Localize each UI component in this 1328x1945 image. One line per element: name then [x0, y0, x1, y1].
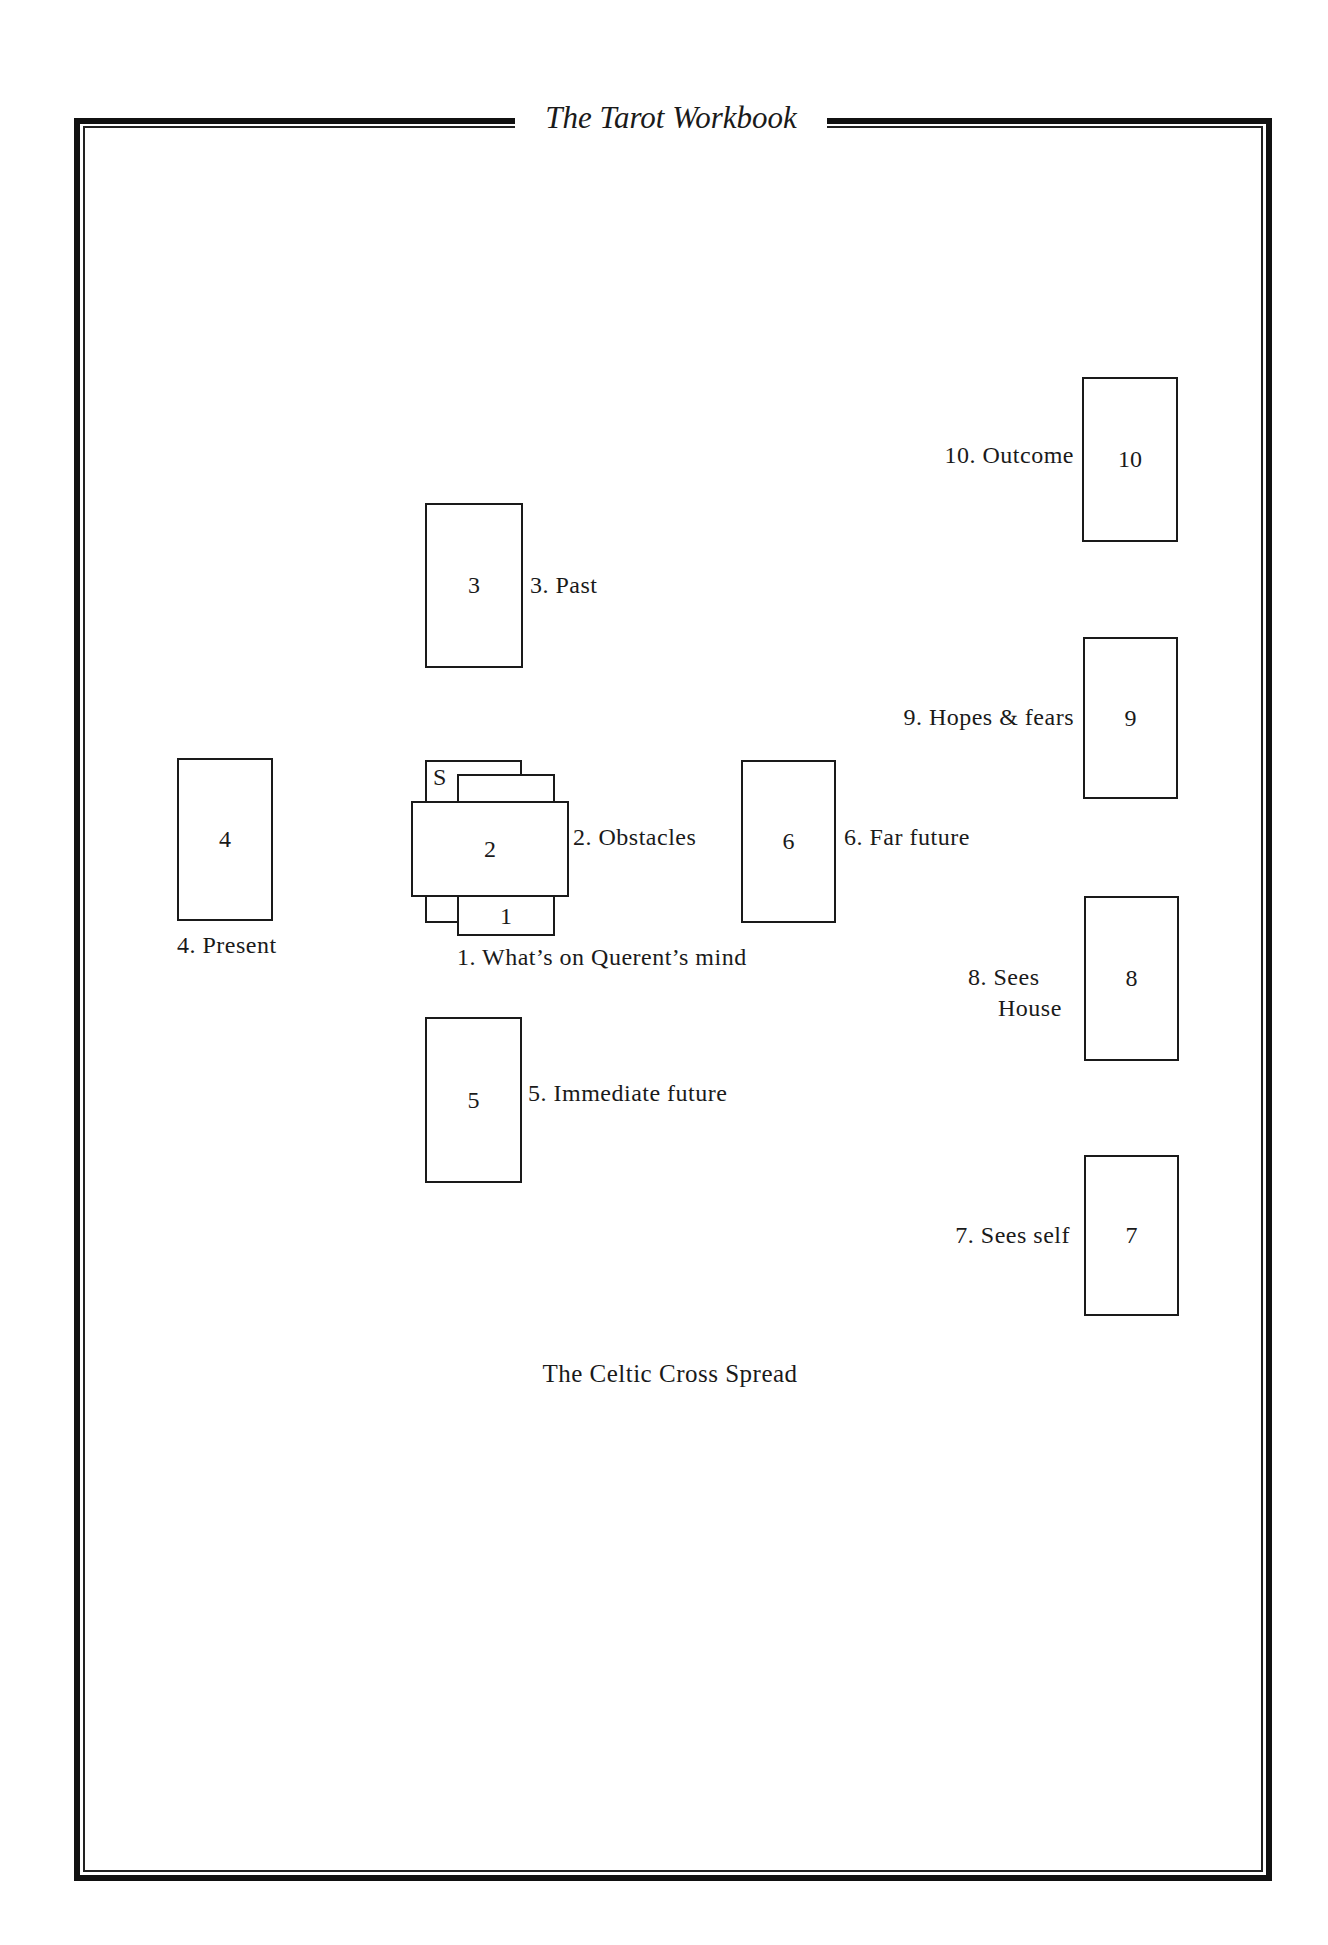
page-title: The Tarot Workbook	[515, 100, 827, 136]
card-2-label: 2. Obstacles	[573, 822, 696, 852]
card-6: 6	[741, 760, 836, 923]
card-3: 3	[425, 503, 523, 668]
card-8-number: 8	[1126, 965, 1138, 992]
card-8-label-line2: House	[998, 993, 1062, 1023]
card-8-label-line1: 8. Sees	[968, 962, 1040, 992]
card-4: 4	[177, 758, 273, 921]
card-10-number: 10	[1118, 446, 1142, 473]
card-8: 8	[1084, 896, 1179, 1061]
card-6-label: 6. Far future	[844, 822, 970, 852]
card-4-number: 4	[219, 826, 231, 853]
card-s-letter: S	[433, 764, 446, 791]
card-2: 2	[411, 801, 569, 897]
card-5: 5	[425, 1017, 522, 1183]
card-1-label: 1. What’s on Querent’s mind	[457, 942, 747, 972]
card-1-number: 1	[500, 903, 512, 930]
card-3-label: 3. Past	[530, 570, 598, 600]
card-2-number: 2	[484, 836, 496, 863]
card-5-number: 5	[468, 1087, 480, 1114]
card-3-number: 3	[468, 572, 480, 599]
card-4-label: 4. Present	[177, 930, 277, 960]
figure-caption: The Celtic Cross Spread	[480, 1360, 860, 1388]
card-9: 9	[1083, 637, 1178, 799]
card-10: 10	[1082, 377, 1178, 542]
card-9-label: 9. Hopes & fears	[840, 702, 1074, 732]
card-6-number: 6	[783, 828, 795, 855]
card-10-label: 10. Outcome	[880, 440, 1074, 470]
card-7: 7	[1084, 1155, 1179, 1316]
card-7-label: 7. Sees self	[880, 1220, 1070, 1250]
card-9-number: 9	[1125, 705, 1137, 732]
card-5-label: 5. Immediate future	[528, 1078, 727, 1108]
card-7-number: 7	[1126, 1222, 1138, 1249]
